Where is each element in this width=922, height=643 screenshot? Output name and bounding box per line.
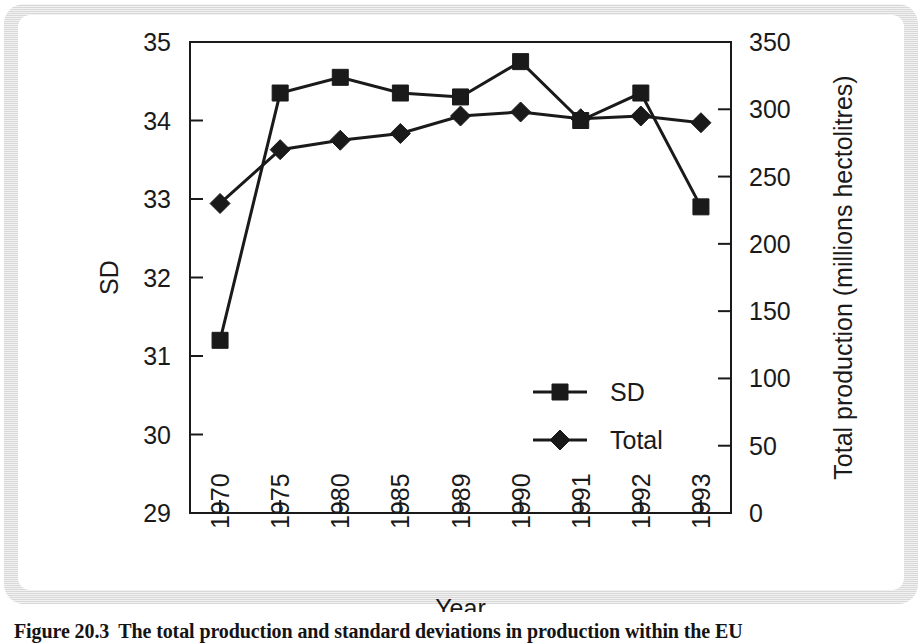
data-point-total <box>451 106 471 126</box>
y2-axis-tick-label: 0 <box>749 499 763 527</box>
x-axis-title: Year <box>435 594 486 612</box>
y-axis-tick-label: 31 <box>143 342 171 370</box>
y2-axis-tick-label: 350 <box>749 28 791 56</box>
data-point-sd <box>453 89 469 105</box>
x-axis-tick-label: 1975 <box>266 473 294 529</box>
y2-axis-tick-label: 100 <box>749 364 791 392</box>
x-axis-tick-label: 1985 <box>386 473 414 529</box>
x-axis-tick-label: 1990 <box>507 473 535 529</box>
y-axis-title: SD <box>95 260 123 295</box>
legend-label-sd: SD <box>610 378 645 406</box>
x-axis-tick-label: 1992 <box>627 473 655 529</box>
y2-axis-tick-label: 50 <box>749 432 777 460</box>
y-axis-tick-label: 32 <box>143 264 171 292</box>
y2-axis-tick-label: 300 <box>749 95 791 123</box>
data-point-sd <box>272 85 288 101</box>
y2-axis-title: Total production (millions hectolitres) <box>829 75 857 479</box>
y2-axis-tick-label: 200 <box>749 230 791 258</box>
y-axis-tick-label: 33 <box>143 185 171 213</box>
data-point-sd <box>633 85 649 101</box>
figure-caption: Figure 20.3The total production and stan… <box>14 620 914 643</box>
legend-label-total: Total <box>610 426 663 454</box>
y-axis-tick-label: 29 <box>143 499 171 527</box>
legend-marker-sd <box>552 384 568 400</box>
legend-marker-total <box>550 430 570 450</box>
data-point-total <box>330 130 350 150</box>
data-point-sd <box>513 54 529 70</box>
x-axis-tick-label: 1989 <box>447 473 475 529</box>
x-axis-tick-label: 1991 <box>567 473 595 529</box>
y-axis-tick-label: 30 <box>143 421 171 449</box>
data-point-sd <box>332 69 348 85</box>
data-point-sd <box>212 332 228 348</box>
chart-container: 2930313233343505010015020025030035019701… <box>0 0 922 612</box>
line-chart: 2930313233343505010015020025030035019701… <box>0 0 922 612</box>
y2-axis-tick-label: 150 <box>749 297 791 325</box>
x-axis-tick-label: 1970 <box>206 473 234 529</box>
data-point-sd <box>693 199 709 215</box>
y2-axis-tick-label: 250 <box>749 163 791 191</box>
x-axis-tick-label: 1980 <box>326 473 354 529</box>
data-point-total <box>691 113 711 133</box>
figure-caption-text: The total production and standard deviat… <box>118 620 742 642</box>
data-point-sd <box>392 85 408 101</box>
data-point-total <box>511 102 531 122</box>
figure-caption-number: Figure 20.3 <box>14 620 109 642</box>
x-axis-tick-label: 1993 <box>687 473 715 529</box>
data-point-total <box>390 124 410 144</box>
y-axis-tick-label: 34 <box>143 107 171 135</box>
y-axis-tick-label: 35 <box>143 28 171 56</box>
